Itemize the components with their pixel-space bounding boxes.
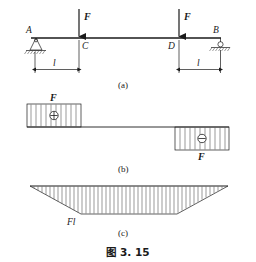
part-label-a: (a)	[118, 80, 128, 90]
shear-positive-label: F	[49, 92, 57, 103]
beam-loading-diagram: F F A C D B	[25, 9, 231, 90]
point-label-D: D	[167, 41, 175, 51]
dimension-span-D-B: l	[179, 40, 221, 73]
point-label-B: B	[213, 25, 219, 35]
part-label-c: (c)	[118, 228, 128, 238]
mechanics-figure: F F A C D B	[0, 0, 256, 262]
dimension-label-DB: l	[197, 58, 200, 68]
shear-plus-sign-icon	[50, 111, 58, 119]
load-label-D: F	[183, 11, 191, 22]
shear-force-diagram: F	[27, 92, 229, 174]
roller-support-B	[210, 38, 231, 51]
figure-container: F F A C D B	[0, 0, 256, 262]
load-label-C: F	[83, 11, 91, 22]
moment-peak-label: Fl	[66, 217, 76, 227]
shear-negative-block	[175, 127, 229, 150]
shear-positive-block	[27, 104, 81, 127]
moment-hatching	[34, 187, 222, 214]
part-label-b: (b)	[118, 164, 129, 174]
pin-support-A	[25, 38, 47, 54]
figure-caption: 图 3. 15	[106, 246, 149, 258]
shear-minus-sign-icon	[198, 134, 206, 142]
point-label-A: A	[25, 25, 32, 35]
bending-moment-diagram: Fl (c)	[30, 186, 228, 238]
point-label-C: C	[82, 41, 89, 51]
dimension-span-A-C: l	[35, 40, 79, 73]
dimension-label-AC: l	[53, 58, 56, 68]
shear-negative-label: F	[197, 151, 205, 162]
